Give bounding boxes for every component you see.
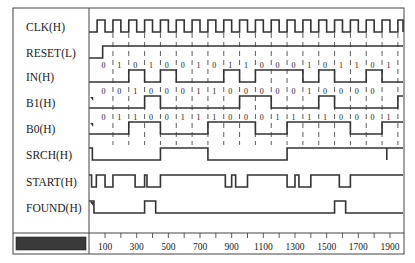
waveform-reset-l-: [89, 46, 403, 58]
bit-label: 0: [165, 61, 169, 70]
bit-label: 1: [196, 87, 200, 96]
axis-tick-label: 900: [225, 242, 240, 252]
bit-label: 1: [307, 87, 311, 96]
bit-label: 0: [244, 113, 248, 122]
bit-label: 1: [228, 61, 232, 70]
bit-label: 0: [165, 113, 169, 122]
bit-label: 1: [149, 61, 153, 70]
bit-label: 0: [101, 61, 105, 70]
axis-tick-label: 1300: [285, 242, 304, 252]
bit-label: 0: [371, 113, 375, 122]
signal-label: B1(H): [26, 97, 56, 110]
bit-label: 1: [133, 87, 137, 96]
bit-label: 1: [133, 113, 137, 122]
axis-tick-label: 1500: [317, 242, 336, 252]
glitch-marker: [90, 97, 93, 101]
bit-label: 0: [228, 87, 232, 96]
bit-label: 0: [355, 113, 359, 122]
bit-label: 0: [101, 113, 105, 122]
bit-label: 0: [260, 113, 264, 122]
bit-label: 0: [323, 61, 327, 70]
bit-label: 0: [291, 61, 295, 70]
axis-tick-label: 300: [130, 242, 145, 252]
axis-tick-label: 1100: [254, 242, 273, 252]
signal-label: SRCH(H): [26, 149, 72, 162]
waveform-in-h-: [89, 70, 403, 82]
scrollbar-thumb[interactable]: [16, 237, 86, 250]
bit-label: 0: [228, 113, 232, 122]
bit-label: 0: [165, 87, 169, 96]
waveform-b1-h-: [89, 96, 403, 108]
axis-tick-label: 1900: [380, 242, 399, 252]
axis-tick-label: 1700: [349, 242, 368, 252]
bit-label: 1: [339, 61, 343, 70]
axis-tick-label: 500: [161, 242, 176, 252]
bit-label: 1: [212, 113, 216, 122]
bit-label: 1: [117, 113, 121, 122]
signal-label: IN(H): [26, 71, 54, 84]
bit-label: 1: [386, 113, 390, 122]
bit-label: 0: [117, 87, 121, 96]
bit-label: 0: [291, 87, 295, 96]
bit-label: 0: [212, 61, 216, 70]
bit-label: 1: [212, 87, 216, 96]
bit-label: 0: [371, 87, 375, 96]
bit-label: 0: [244, 87, 248, 96]
bit-label: 1: [196, 113, 200, 122]
bit-label: 0: [181, 87, 185, 96]
bit-label: 1: [196, 61, 200, 70]
bit-label: 0: [133, 61, 137, 70]
signal-label: RESET(L): [26, 47, 76, 60]
bit-label: 0: [276, 61, 280, 70]
bit-label: 1: [244, 61, 248, 70]
signal-label: B0(H): [26, 123, 56, 136]
bit-label: 0: [260, 61, 264, 70]
bit-label: 1: [307, 113, 311, 122]
axis-tick-label: 100: [98, 242, 113, 252]
bit-label: 0: [371, 61, 375, 70]
signal-label: CLK(H): [26, 21, 65, 34]
timing-diagram: CLK(H)RESET(L)IN(H)B1(H)B0(H)SRCH(H)STAR…: [0, 0, 415, 263]
signal-labels: CLK(H)RESET(L)IN(H)B1(H)B0(H)SRCH(H)STAR…: [26, 21, 82, 215]
bit-label: 1: [291, 113, 295, 122]
bit-label: 0: [149, 87, 153, 96]
bit-label: 1: [117, 61, 121, 70]
bit-label: 0: [101, 87, 105, 96]
waveform-b0-h-: [89, 122, 403, 134]
timing-diagram-svg: CLK(H)RESET(L)IN(H)B1(H)B0(H)SRCH(H)STAR…: [0, 0, 415, 263]
time-axis: 10030050070090011001300150017001900: [98, 233, 400, 252]
bit-label: 0: [323, 87, 327, 96]
bit-label: 1: [181, 113, 185, 122]
bit-label: 1: [355, 61, 359, 70]
bit-label: 0: [181, 61, 185, 70]
bit-label: 0: [339, 87, 343, 96]
waveform-start-h-: [89, 175, 403, 187]
axis-tick-label: 700: [193, 242, 208, 252]
glitch-marker: [90, 123, 93, 127]
bit-label: 0: [339, 113, 343, 122]
signal-label: START(H): [26, 176, 77, 189]
bit-label: 0: [260, 87, 264, 96]
waveform-found-h-: [89, 201, 403, 213]
signal-label: FOUND(H): [26, 202, 82, 215]
bit-label: 0: [355, 87, 359, 96]
bit-label: 1: [323, 113, 327, 122]
bit-label: 0: [149, 113, 153, 122]
glitch-marker: [90, 202, 93, 206]
bit-label: 1: [386, 61, 390, 70]
bit-label: 0: [276, 87, 280, 96]
waveform-clk: [89, 20, 403, 32]
bit-label: 1: [276, 113, 280, 122]
waveform-srch-h-: [89, 148, 403, 160]
bit-label: 1: [307, 61, 311, 70]
